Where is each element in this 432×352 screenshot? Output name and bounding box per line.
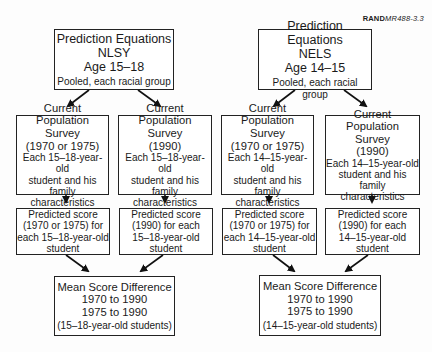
box-line: student and his family	[222, 175, 313, 197]
box-line: Predicted score	[235, 209, 304, 220]
box-line: 1970 to 1990	[82, 293, 147, 306]
box-line: (1970 or 1975) for	[229, 220, 309, 231]
box-line: characteristics	[236, 197, 300, 208]
box-line: Each 14–15-year-old	[326, 158, 419, 169]
dataset-label: NLSY	[98, 46, 131, 60]
cps-1970-1975-box-nels: Current Population Survey (1970 or 1975)…	[221, 115, 314, 195]
cps-1990-box-nlsy: Current Population Survey (1990) Each 15…	[118, 115, 212, 195]
mean-score-difference-box-nlsy: Mean Score Difference 1970 to 1990 1975 …	[54, 276, 175, 336]
box-line: student	[47, 243, 80, 254]
note-label: Pooled, each racial group	[57, 76, 170, 87]
box-line: 1975 to 1990	[287, 305, 352, 318]
predicted-score-1990-box-nlsy: Predicted score (1990) for each 15–18-ye…	[119, 208, 213, 255]
box-line: each 14–15-year-old	[224, 232, 316, 243]
box-line: (1990) for each	[339, 220, 407, 231]
box-line: characteristics	[31, 197, 95, 208]
box-line: Predicted score	[131, 209, 200, 220]
age-label: Age 14–15	[285, 61, 345, 75]
dataset-label: NELS	[299, 47, 332, 61]
box-line: 1975 to 1990	[82, 306, 147, 319]
box-line: 1970 to 1990	[287, 293, 352, 306]
predicted-score-1970-1975-box-nels: Predicted score (1970 or 1975) for each …	[222, 208, 317, 255]
box-line: Current Population	[326, 108, 419, 133]
box-line: (1970 or 1975)	[26, 140, 99, 153]
nlsy-prediction-equations-box: Prediction Equations NLSY Age 15–18 Pool…	[54, 29, 174, 90]
mean-score-difference-box-nels: Mean Score Difference 1970 to 1990 1975 …	[259, 275, 381, 336]
cps-1970-1975-box-nlsy: Current Population Survey (1970 or 1975)…	[16, 115, 109, 195]
box-line: (1990) for each	[132, 220, 200, 231]
box-title: Prediction Equations	[259, 19, 371, 47]
box-line: (14–15-year-old students)	[263, 320, 378, 331]
box-line: Predicted score	[28, 209, 97, 220]
box-line: (1990)	[149, 140, 181, 153]
box-line: characteristics	[133, 197, 197, 208]
note-label: Pooled, each racial group	[259, 77, 371, 99]
age-label: Age 15–18	[84, 60, 144, 74]
box-line: Current Population	[17, 102, 108, 127]
predicted-score-1970-1975-box-nlsy: Predicted score (1970 or 1975) for each …	[16, 208, 110, 255]
box-line: Survey	[250, 127, 285, 140]
box-line: 15–18-year-old	[132, 232, 199, 243]
box-line: (15–18-year-old students)	[57, 320, 172, 331]
box-line: Survey	[355, 133, 390, 146]
predicted-score-1990-box-nels: Predicted score (1990) for each 14–15-ye…	[325, 208, 420, 255]
box-line: student and his family	[119, 175, 211, 197]
box-line: Survey	[45, 127, 80, 140]
box-line: student	[356, 243, 389, 254]
box-line: Predicted score	[338, 209, 407, 220]
box-line: 14–15-year-old	[339, 232, 406, 243]
box-line: student	[150, 243, 183, 254]
box-line: student	[253, 243, 286, 254]
box-line: Mean Score Difference	[57, 281, 171, 294]
box-line: characteristics	[341, 191, 405, 202]
box-title: Prediction Equations	[57, 32, 172, 46]
box-line: student and his family	[326, 169, 419, 191]
box-line: Each 14–15-year-old	[222, 152, 313, 174]
box-line: student and his family	[17, 175, 108, 197]
box-line: Mean Score Difference	[263, 280, 377, 293]
cps-1990-box-nels: Current Population Survey (1990) Each 14…	[325, 115, 420, 195]
box-line: Each 15–18-year-old	[119, 152, 211, 174]
box-line: Survey	[148, 127, 183, 140]
box-line: Current Population	[222, 102, 313, 127]
box-line: each 15–18-year-old	[17, 232, 109, 243]
box-line: Each 15–18-year-old	[17, 152, 108, 174]
nels-prediction-equations-box: Prediction Equations NELS Age 14–15 Pool…	[258, 29, 372, 90]
box-line: (1970 or 1975) for	[23, 220, 103, 231]
box-line: Current Population	[119, 102, 211, 127]
box-line: (1990)	[356, 145, 388, 158]
box-line: (1970 or 1975)	[231, 140, 304, 153]
